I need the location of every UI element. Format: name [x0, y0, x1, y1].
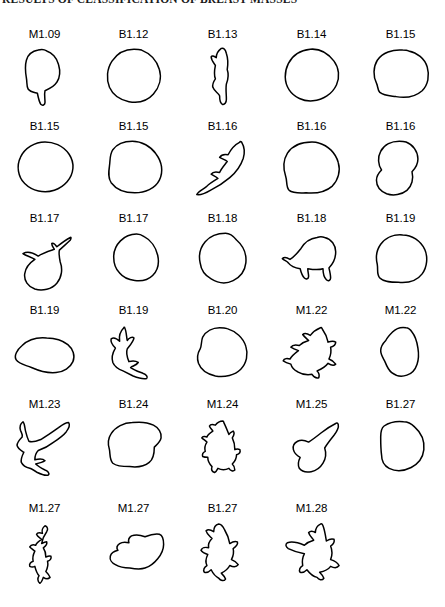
figure-title: RESULTS OF CLASSIFICATION OF BREAST MASS…	[2, 0, 443, 5]
contour-path	[285, 49, 338, 101]
specimen-cell: M1.27	[89, 484, 178, 594]
specimen-contour	[181, 229, 265, 295]
contour-path	[283, 328, 335, 378]
specimen-cell: M1.27	[0, 484, 89, 594]
specimen-contour	[3, 229, 87, 295]
specimen-cell: B1.18	[178, 204, 267, 296]
contour-path	[197, 328, 246, 377]
specimen-label: B1.13	[208, 28, 238, 41]
contour-path	[293, 423, 338, 472]
contour-path	[23, 237, 71, 290]
specimen-contour	[3, 137, 87, 203]
specimen-label: B1.27	[386, 398, 416, 411]
contour-path	[110, 327, 146, 379]
specimen-cell: M1.28	[267, 484, 356, 594]
specimen-label: B1.16	[386, 120, 416, 133]
contour-path	[113, 234, 158, 281]
contour-path	[201, 421, 239, 473]
specimen-contour	[92, 519, 176, 585]
specimen-label: B1.15	[30, 120, 60, 133]
specimen-contour	[270, 137, 354, 203]
specimen-label: B1.17	[119, 212, 149, 225]
specimen-contour	[92, 229, 176, 295]
specimen-contour	[359, 45, 443, 111]
specimen-label: M1.27	[29, 502, 60, 515]
specimen-label: M1.24	[207, 398, 238, 411]
specimen-cell: B1.19	[356, 204, 445, 296]
specimen-contour	[181, 415, 265, 481]
specimen-label: B1.19	[30, 304, 60, 317]
specimen-contour	[270, 229, 354, 295]
specimen-label: B1.15	[119, 120, 149, 133]
specimen-cell: M1.25	[267, 390, 356, 484]
specimen-label: B1.15	[386, 28, 416, 41]
specimen-cell: B1.27	[178, 484, 267, 594]
specimen-contour	[359, 137, 443, 203]
specimen-contour	[92, 137, 176, 203]
specimen-cell: M1.24	[178, 390, 267, 484]
specimen-cell: B1.27	[356, 390, 445, 484]
contour-path	[201, 524, 238, 581]
specimen-label: M1.22	[385, 304, 416, 317]
specimen-grid: M1.09B1.12B1.13B1.14B1.15B1.15B1.15B1.16…	[0, 20, 445, 594]
specimen-label: B1.19	[119, 304, 149, 317]
contour-path	[18, 142, 73, 192]
contour-path	[110, 534, 163, 569]
contour-path	[380, 328, 418, 376]
contour-path	[380, 422, 423, 471]
specimen-contour	[270, 519, 354, 585]
specimen-cell: B1.17	[0, 204, 89, 296]
contour-path	[376, 141, 417, 195]
specimen-cell: B1.24	[89, 390, 178, 484]
specimen-contour	[3, 45, 87, 111]
specimen-cell: B1.16	[267, 112, 356, 204]
specimen-cell: B1.17	[89, 204, 178, 296]
specimen-contour	[181, 519, 265, 585]
contour-path	[25, 50, 59, 106]
specimen-cell: B1.19	[0, 296, 89, 390]
specimen-contour	[3, 519, 87, 585]
specimen-label: B1.14	[297, 28, 327, 41]
specimen-contour	[181, 137, 265, 203]
contour-path	[17, 422, 69, 476]
specimen-label: B1.18	[297, 212, 327, 225]
specimen-contour	[3, 415, 87, 481]
specimen-cell: B1.13	[178, 20, 267, 112]
specimen-cell: M1.09	[0, 20, 89, 112]
specimen-contour	[3, 321, 87, 387]
contour-path	[211, 48, 228, 104]
contour-path	[108, 422, 161, 467]
specimen-cell: B1.16	[356, 112, 445, 204]
specimen-contour	[270, 321, 354, 387]
specimen-label: B1.16	[208, 120, 238, 133]
contour-path	[374, 50, 428, 97]
specimen-cell: B1.18	[267, 204, 356, 296]
specimen-label: M1.23	[29, 398, 60, 411]
contour-path	[282, 237, 335, 281]
contour-path	[284, 142, 339, 193]
contour-path	[196, 141, 243, 194]
specimen-contour	[270, 45, 354, 111]
specimen-cell: B1.20	[178, 296, 267, 390]
specimen-cell: M1.22	[356, 296, 445, 390]
specimen-label: B1.17	[30, 212, 60, 225]
specimen-label: B1.27	[208, 502, 238, 515]
contour-path	[15, 338, 74, 373]
specimen-cell: M1.23	[0, 390, 89, 484]
figure-root: RESULTS OF CLASSIFICATION OF BREAST MASS…	[0, 0, 445, 607]
specimen-cell: M1.22	[267, 296, 356, 390]
specimen-contour	[92, 321, 176, 387]
specimen-contour	[359, 321, 443, 387]
specimen-cell: B1.15	[89, 112, 178, 204]
specimen-label: B1.12	[119, 28, 149, 41]
specimen-label: M1.25	[296, 398, 327, 411]
specimen-label: B1.18	[208, 212, 238, 225]
specimen-label: M1.22	[296, 304, 327, 317]
specimen-cell: B1.16	[178, 112, 267, 204]
specimen-cell: B1.15	[356, 20, 445, 112]
contour-path	[376, 235, 426, 283]
contour-path	[108, 141, 161, 193]
specimen-contour	[270, 415, 354, 481]
contour-path	[199, 233, 245, 282]
specimen-cell: B1.15	[0, 112, 89, 204]
